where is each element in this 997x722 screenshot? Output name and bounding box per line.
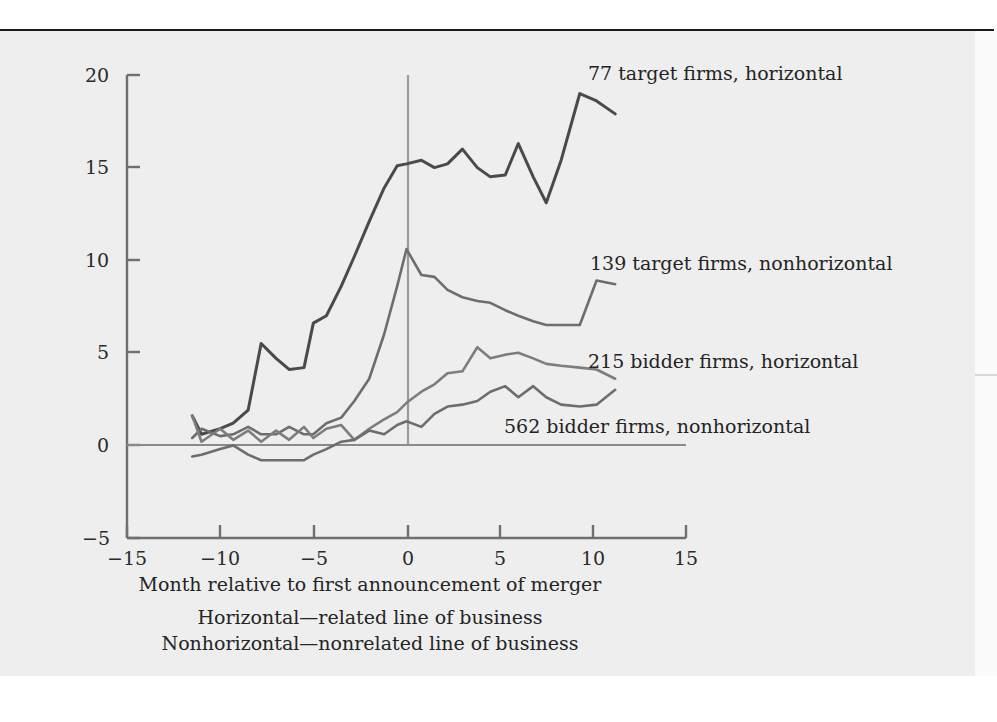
y-tick-0: 0 (97, 434, 109, 456)
y-tick-10: 10 (85, 249, 109, 271)
y-tick-minus5: −5 (82, 527, 110, 549)
x-tick-minus10: −10 (200, 547, 240, 569)
x-tick-0: 0 (402, 547, 414, 569)
x-axis-ticks (127, 525, 686, 538)
series-label-target-horizontal: 77 target firms, horizontal (588, 62, 843, 84)
y-tick-20: 20 (85, 64, 109, 86)
x-tick-minus15: −15 (107, 547, 147, 569)
x-tick-minus5: −5 (300, 547, 328, 569)
series-label-bidder-nonhorizontal: 562 bidder firms, nonhorizontal (504, 415, 810, 437)
axis-lines (127, 75, 686, 538)
y-tick-15: 15 (85, 156, 109, 178)
x-tick-5: 5 (494, 547, 506, 569)
series-label-target-nonhorizontal: 139 target firms, nonhorizontal (590, 252, 893, 274)
series-line-1 (192, 249, 615, 438)
y-tick-5: 5 (97, 341, 109, 363)
x-axis-title: Month relative to first announcement of … (0, 573, 740, 595)
caption-horizontal-note: Horizontal—related line of business (0, 606, 740, 628)
figure-page: 20 15 10 5 0 −5 −15 −10 −5 0 5 10 15 Mon… (0, 0, 997, 722)
x-tick-10: 10 (581, 547, 605, 569)
series-lines (192, 94, 615, 461)
series-label-bidder-horizontal: 215 bidder firms, horizontal (588, 350, 858, 372)
caption-nonhorizontal-note: Nonhorizontal—nonrelated line of busines… (0, 632, 740, 654)
x-tick-15: 15 (674, 547, 698, 569)
y-axis-ticks (127, 75, 140, 538)
